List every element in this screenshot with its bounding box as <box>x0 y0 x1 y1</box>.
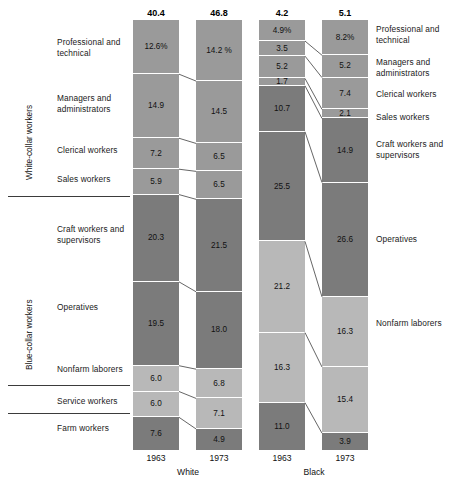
bar-segment: 6.0 <box>133 366 179 392</box>
left-label-craft: Craft workers and supervisors <box>57 224 124 245</box>
total-black-1973: 5.1 <box>322 8 368 18</box>
segment-value-label: 14.9 <box>148 101 164 110</box>
bar-segment: 7.4 <box>322 78 368 110</box>
left-label-farm: Farm workers <box>57 423 109 434</box>
bar-segment: 5.9 <box>133 169 179 194</box>
bar-segment: 15.4 <box>322 367 368 433</box>
segment-value-label: 21.5 <box>211 241 227 250</box>
xtick-white-1963: 1963 <box>133 453 179 463</box>
bar-black-1963: 4.9%3.55.21.710.725.521.216.311.0 <box>259 20 305 450</box>
divider-service-farm <box>8 413 130 414</box>
bar-segment: 8.2% <box>322 20 368 55</box>
bar-segment: 16.3 <box>259 333 305 403</box>
segment-value-label: 6.5 <box>213 152 224 161</box>
segment-value-label: 21.2 <box>274 282 290 291</box>
right-label-sales: Sales workers <box>376 112 429 123</box>
segment-value-label: 14.5 <box>211 107 227 116</box>
segment-value-label: 11.0 <box>274 422 289 431</box>
divider-white-blue-collar <box>8 196 130 197</box>
bar-segment: 1.7 <box>259 78 305 85</box>
bar-segment: 7.1 <box>196 398 242 429</box>
bar-segment: 21.2 <box>259 241 305 332</box>
bar-white-1963: 12.6%14.97.25.920.319.56.06.07.6 <box>133 20 179 450</box>
bar-segment: 10.7 <box>259 86 305 132</box>
bar-segment: 7.6 <box>133 417 179 450</box>
bar-segment: 6.5 <box>196 171 242 199</box>
segment-value-label: 5.2 <box>276 62 287 71</box>
bar-segment: 21.5 <box>196 199 242 291</box>
bar-segment: 3.5 <box>259 41 305 56</box>
segment-value-label: 26.6 <box>337 235 353 244</box>
bar-segment: 4.9% <box>259 20 305 41</box>
right-label-operatives: Operatives <box>376 234 417 245</box>
caption-white-collar-workers: White-collar workers <box>24 105 34 180</box>
bar-segment: 5.2 <box>259 56 305 78</box>
segment-value-label: 12.6% <box>144 42 167 51</box>
divider-blue-service <box>8 385 130 386</box>
left-label-professional: Professional and technical <box>57 37 120 58</box>
right-label-craft: Craft workers and supervisors <box>376 139 443 160</box>
xtick-white-1973: 1973 <box>196 453 242 463</box>
bar-segment: 5.2 <box>322 55 368 77</box>
left-label-operatives: Operatives <box>57 302 98 313</box>
bar-black-1973: 8.2%5.27.42.114.926.616.315.43.9 <box>322 20 368 450</box>
right-label-clerical: Clerical workers <box>376 89 437 100</box>
xtick-black-1973: 1973 <box>322 453 368 463</box>
bar-segment: 25.5 <box>259 132 305 242</box>
bar-segment: 18.0 <box>196 292 242 369</box>
segment-value-label: 20.3 <box>148 233 164 242</box>
bar-segment: 12.6% <box>133 20 179 74</box>
total-white-1963: 40.4 <box>133 8 179 18</box>
segment-value-label: 1.7 <box>276 77 287 86</box>
segment-value-label: 6.0 <box>150 374 161 383</box>
segment-value-label: 8.2% <box>336 33 355 42</box>
segment-value-label: 7.1 <box>213 409 224 418</box>
segment-value-label: 19.5 <box>148 319 164 328</box>
total-black-1963: 4.2 <box>259 8 305 18</box>
segment-value-label: 10.7 <box>274 104 290 113</box>
bar-segment: 2.1 <box>322 109 368 118</box>
bar-segment: 6.5 <box>196 143 242 171</box>
segment-value-label: 5.9 <box>150 177 161 186</box>
segment-value-label: 7.4 <box>339 89 350 98</box>
bar-segment: 11.0 <box>259 403 305 450</box>
left-label-clerical: Clerical workers <box>57 145 118 156</box>
right-label-managers: Managers and administrators <box>376 57 430 78</box>
group-label-black: Black <box>281 467 347 477</box>
segment-value-label: 7.2 <box>150 149 161 158</box>
segment-value-label: 2.1 <box>339 109 350 118</box>
segment-value-label: 6.8 <box>213 379 224 388</box>
bar-segment: 7.2 <box>133 138 179 169</box>
right-label-professional: Professional and technical <box>376 24 439 45</box>
bar-segment: 16.3 <box>322 297 368 367</box>
group-label-white: White <box>155 467 221 477</box>
bar-segment: 19.5 <box>133 282 179 366</box>
bar-segment: 14.9 <box>322 118 368 182</box>
left-label-managers: Managers and administrators <box>57 93 111 114</box>
bar-segment: 6.0 <box>133 392 179 418</box>
segment-value-label: 25.5 <box>274 182 290 191</box>
bar-segment: 6.8 <box>196 369 242 398</box>
segment-value-label: 6.5 <box>213 180 224 189</box>
segment-value-label: 18.0 <box>211 325 227 334</box>
segment-value-label: 3.5 <box>276 44 287 53</box>
bar-segment: 26.6 <box>322 183 368 297</box>
caption-blue-collar-workers: Blue-collar workers <box>24 299 34 370</box>
bar-segment: 4.9 <box>196 429 242 450</box>
segment-value-label: 7.6 <box>150 429 161 438</box>
segment-value-label: 14.2 % <box>206 46 232 55</box>
bar-white-1973: 14.2 %14.56.56.521.518.06.87.14.9 <box>196 20 242 450</box>
segment-value-label: 6.0 <box>150 399 161 408</box>
segment-value-label: 5.2 <box>339 61 350 70</box>
segment-value-label: 14.9 <box>337 146 353 155</box>
segment-value-label: 16.3 <box>337 327 353 336</box>
right-label-nonfarm: Nonfarm laborers <box>376 318 442 329</box>
bar-segment: 14.2 % <box>196 20 242 81</box>
segment-value-label: 3.9 <box>339 437 350 446</box>
left-label-service: Service workers <box>57 396 118 407</box>
left-label-nonfarm: Nonfarm laborers <box>57 364 123 375</box>
segment-value-label: 15.4 <box>337 395 353 404</box>
left-label-sales: Sales workers <box>57 174 110 185</box>
segment-value-label: 4.9 <box>213 435 224 444</box>
